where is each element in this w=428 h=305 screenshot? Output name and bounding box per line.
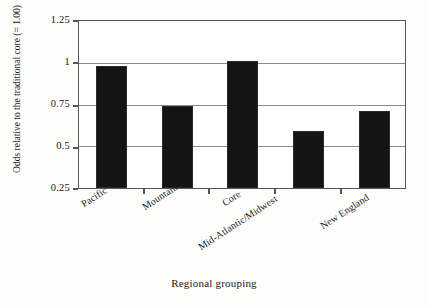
bar-mountain[interactable] — [162, 106, 193, 188]
y-tick-label-125: 1.25 — [26, 14, 70, 25]
y-tick-label-1: 1 — [26, 56, 70, 67]
x-tick-mark-3 — [274, 189, 276, 194]
y-tick-label-05: 0.5 — [26, 140, 70, 151]
bar-core[interactable] — [227, 61, 258, 188]
x-category-label-core: Core — [220, 188, 243, 208]
y-tick-label-025: 0.25 — [26, 182, 70, 193]
x-tick-mark-2 — [208, 189, 210, 194]
bar-chart-figure: 1.25 1 0.75 0.5 0.25 Odds relative to th… — [0, 0, 428, 305]
x-axis-title: Regional grouping — [0, 277, 428, 289]
x-tick-mark-1 — [143, 189, 145, 194]
y-axis-title: Odds relative to the traditional core (=… — [12, 0, 22, 189]
x-category-label-new-england: New England — [318, 192, 371, 232]
plot-area — [78, 20, 406, 189]
x-category-label-mid-atlantic-midwest: Mid-Atlantic/Midwest — [196, 193, 279, 252]
x-tick-mark-4 — [340, 189, 342, 194]
bar-pacific[interactable] — [96, 66, 127, 188]
bar-new-england[interactable] — [359, 111, 390, 188]
y-tick-label-075: 0.75 — [26, 98, 70, 109]
bar-mid-atlantic-midwest[interactable] — [293, 131, 324, 188]
